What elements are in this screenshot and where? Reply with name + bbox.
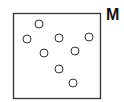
panel-label: M — [106, 7, 119, 23]
particle-group — [23, 20, 93, 87]
particle-circle — [35, 20, 43, 28]
particle-circle — [23, 35, 31, 43]
particle-circle — [55, 34, 63, 42]
particle-circle — [85, 33, 93, 41]
particle-circle — [40, 49, 48, 57]
particle-circle — [71, 47, 79, 55]
particle-circle — [55, 65, 63, 73]
particle-circle — [69, 79, 77, 87]
diagram-panel: M — [0, 0, 124, 102]
container-box — [14, 14, 101, 99]
